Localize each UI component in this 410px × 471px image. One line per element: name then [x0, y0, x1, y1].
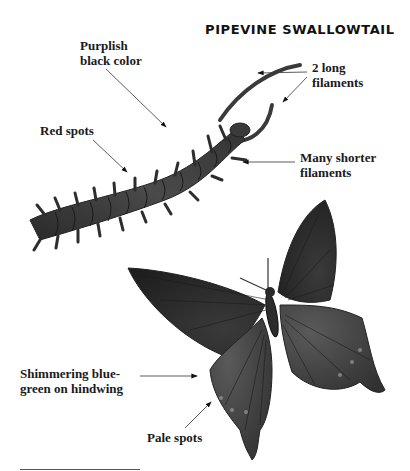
pointer-lines: [93, 69, 307, 428]
caterpillar-illustration: [30, 65, 300, 250]
illustration: [0, 0, 410, 471]
footer-rule: [20, 469, 140, 470]
butterfly-illustration: [128, 200, 385, 460]
